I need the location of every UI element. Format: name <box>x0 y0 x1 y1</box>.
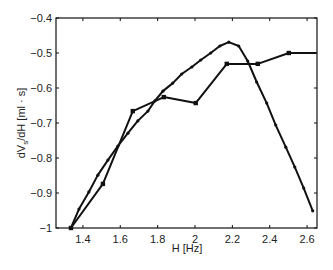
data-point-square <box>256 62 260 66</box>
data-point-dot <box>237 44 240 47</box>
data-point-dot <box>265 101 268 104</box>
axes-frame <box>56 18 317 228</box>
y-tick-label: −0.9 <box>30 187 52 199</box>
y-tick-label: −0.6 <box>30 82 52 94</box>
y-tick-label: −0.7 <box>30 117 52 129</box>
data-point-square <box>194 101 198 105</box>
y-tick-label: −0.8 <box>30 152 52 164</box>
y-tick-label: −1 <box>39 222 52 234</box>
data-point-dot <box>311 209 314 212</box>
x-tick-label: 2.4 <box>262 233 277 245</box>
data-point-dot <box>171 82 174 85</box>
data-point-dot <box>77 208 80 211</box>
series-line <box>71 53 317 228</box>
data-point-dot <box>199 58 202 61</box>
data-point-dot <box>87 190 90 193</box>
data-point-dot <box>246 59 249 62</box>
y-tick-label: −0.5 <box>30 47 52 59</box>
data-point-square <box>287 51 291 55</box>
data-point-dot <box>274 124 277 127</box>
data-point-dot <box>96 174 99 177</box>
x-tick-label: 1.8 <box>150 233 165 245</box>
data-point-dot <box>209 51 212 54</box>
data-point-dot <box>106 159 109 162</box>
data-point-dot <box>136 119 139 122</box>
data-point-square <box>101 182 105 186</box>
data-point-dot <box>116 145 119 148</box>
data-point-dot <box>146 110 149 113</box>
data-point-dot <box>227 41 230 44</box>
x-axis-label: H [Hz] <box>172 242 203 254</box>
data-point-dot <box>293 166 296 169</box>
data-point-square <box>162 95 166 99</box>
data-point-dot <box>284 146 287 149</box>
data-point-dot <box>161 90 164 93</box>
x-tick-label: 2.6 <box>299 233 314 245</box>
series-square-markers <box>69 51 317 230</box>
series-line <box>71 42 313 228</box>
x-tick-label: 1.4 <box>75 233 90 245</box>
data-point-square <box>225 62 229 66</box>
series-layer <box>69 41 317 231</box>
data-point-dot <box>302 187 305 190</box>
data-point-dot <box>190 65 193 68</box>
data-point-dot <box>126 132 129 135</box>
data-point-dot <box>218 44 221 47</box>
y-tick-label: −0.4 <box>30 12 52 24</box>
data-point-square <box>131 109 135 113</box>
data-point-dot <box>255 80 258 83</box>
line-chart: 1.41.61.822.22.42.6 −1−0.9−0.8−0.7−0.6−0… <box>0 0 333 270</box>
x-tick-label: 1.6 <box>113 233 128 245</box>
x-tick-label: 2.2 <box>225 233 240 245</box>
y-axis-label: dVs/dH [ml · s] <box>15 88 30 159</box>
series-dot-markers <box>69 41 314 230</box>
data-point-dot <box>180 72 183 75</box>
data-point-dot <box>153 99 156 102</box>
